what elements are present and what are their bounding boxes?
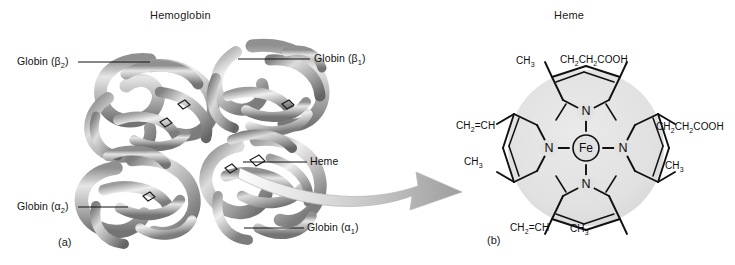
caption-panel-b: (b)	[487, 234, 500, 246]
panel-title-hemoglobin: Hemoglobin	[150, 9, 211, 21]
label-globin-beta2-tail: )	[65, 55, 69, 67]
heme-structure: Fe N N N N	[0, 0, 735, 265]
label-globin-alpha2-tail: )	[65, 200, 69, 212]
methyl-top-left-sub: 3	[531, 61, 535, 68]
label-globin-beta1-text: Globin (β	[314, 52, 358, 64]
label-globin-alpha1-text: Globin (α	[307, 221, 351, 233]
label-globin-beta1-tail: )	[362, 52, 366, 64]
label-globin-beta2: Globin (β2)	[17, 55, 69, 70]
figure-root: Fe N N N N Hemoglobin Heme Globin (β2) G…	[0, 0, 735, 265]
substituent-methyl-left-lower: CH3	[464, 156, 483, 169]
atom-n-top: N	[581, 104, 590, 118]
stub-methyl-top-left	[545, 62, 552, 77]
label-globin-alpha2: Globin (α2)	[17, 200, 69, 215]
methyl-top-left-text: CH	[516, 55, 531, 66]
label-globin-alpha1: Globin (α1)	[307, 221, 359, 236]
substituent-propionate-right: CH2CH2COOH	[656, 121, 724, 134]
atom-n-right: N	[618, 141, 627, 155]
stub-methyl-bottom	[620, 219, 627, 234]
caption-panel-a: (a)	[58, 236, 71, 248]
panel-title-heme: Heme	[554, 9, 584, 21]
substituent-methyl-right-lower: CH3	[665, 160, 684, 173]
atom-fe: Fe	[579, 141, 593, 155]
substituent-methyl-top-left: CH3	[516, 55, 535, 68]
atom-n-left: N	[544, 141, 553, 155]
substituent-methyl-bottom: CH3	[570, 223, 589, 236]
atom-n-bottom: N	[581, 177, 590, 191]
label-globin-beta1: Globin (β1)	[314, 52, 366, 67]
substituent-vinyl-left: CH2=CH	[456, 120, 495, 133]
label-heme-callout: Heme	[310, 155, 338, 167]
label-globin-alpha2-text: Globin (α	[17, 200, 61, 212]
substituent-vinyl-bottom: CH2=CH	[510, 222, 549, 235]
label-globin-beta2-text: Globin (β	[17, 55, 61, 67]
label-globin-alpha1-tail: )	[355, 221, 359, 233]
substituent-propionate-top-right: CH2CH2COOH	[560, 54, 628, 67]
